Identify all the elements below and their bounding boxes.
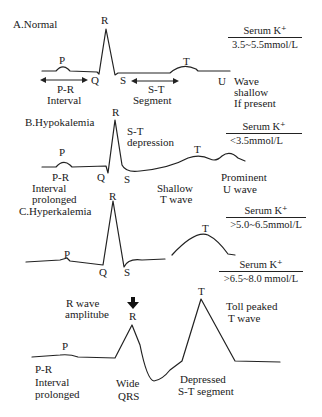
pr-label-3: prolonged xyxy=(35,389,80,400)
panel-b-title: B.Hypokalemia xyxy=(25,117,94,128)
serum-k-hyper: Serum K⁺ >5.0~6.5mmol/L xyxy=(226,205,306,231)
u-label-3: If present xyxy=(234,98,276,109)
qrs-label-2: QRS xyxy=(118,391,139,402)
pr-label-2: Interval xyxy=(47,95,81,106)
serum-k-label: Serum K⁺ xyxy=(239,259,282,270)
label-s: S xyxy=(120,75,126,86)
label-u: U xyxy=(218,76,226,87)
label-t: T xyxy=(183,56,190,67)
label-r: R xyxy=(129,311,136,322)
panel-c-title: C.Hyperkalemia xyxy=(19,206,91,217)
ecg-trace-normal xyxy=(42,29,230,75)
qrs-label-1: Wide xyxy=(116,378,139,389)
label-p: P xyxy=(59,55,65,66)
label-q: Q xyxy=(99,267,107,278)
st-label-2: depression xyxy=(127,137,174,148)
st-label-2: Segment xyxy=(133,95,172,106)
serum-k-value: >5.0~6.5mmol/L xyxy=(226,217,306,231)
tw-label-2: T wave xyxy=(228,313,260,324)
serum-k-hypo: Serum K⁺ <3.5mmol/L xyxy=(226,121,302,147)
st-label-1: Depressed xyxy=(180,374,226,385)
label-p: P xyxy=(62,341,68,352)
tw-label-2: T wave xyxy=(160,194,192,205)
label-t: T xyxy=(198,286,205,297)
label-r: R xyxy=(101,15,108,26)
pr-label-2: Interval xyxy=(35,377,69,388)
serum-k-normal: Serum K⁺ 3.5~5.5mmol/L xyxy=(228,25,302,51)
label-q: Q xyxy=(97,172,105,183)
label-s: S xyxy=(124,174,130,185)
serum-k-value: 3.5~5.5mmol/L xyxy=(228,37,302,51)
tw-label-1: Toll peaked xyxy=(226,301,277,312)
ecg-trace-hyperkalemia-t xyxy=(172,234,235,255)
label-s: S xyxy=(124,267,130,278)
label-p: P xyxy=(64,249,70,260)
u-label-1: Prominent xyxy=(221,172,267,183)
label-p: P xyxy=(59,147,65,158)
serum-k-label: Serum K⁺ xyxy=(244,205,287,216)
pr-label-3: prolonged xyxy=(32,194,77,205)
down-arrow-icon xyxy=(127,297,139,309)
label-r: R xyxy=(109,191,116,202)
serum-k-severe: Serum K⁺ >6.5~8.0 mmol/L xyxy=(219,259,303,285)
serum-k-label: Serum K⁺ xyxy=(243,25,286,36)
label-q: Q xyxy=(91,75,99,86)
serum-k-label: Serum K⁺ xyxy=(242,121,285,132)
serum-k-value: <3.5mmol/L xyxy=(226,133,302,147)
u-label-2: U wave xyxy=(223,184,257,195)
pr-label-1: P-R xyxy=(35,364,52,375)
panel-a-title: A.Normal xyxy=(13,19,57,30)
label-t: T xyxy=(194,144,201,155)
st-label-2: S-T segment xyxy=(178,386,234,397)
label-t: T xyxy=(202,223,209,234)
serum-k-value: >6.5~8.0 mmol/L xyxy=(219,271,303,285)
label-r: R xyxy=(112,107,119,118)
r-amplitude-label-2: amplitube xyxy=(65,309,109,320)
